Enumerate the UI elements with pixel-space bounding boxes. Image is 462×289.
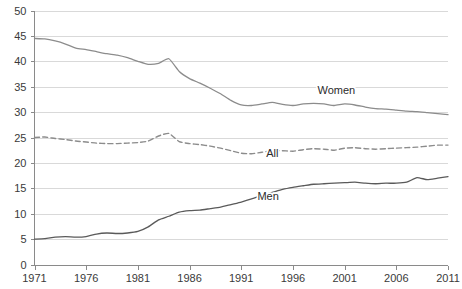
y-axis-tick-labels: 05101520253035404550	[14, 5, 26, 271]
x-tick-label-1976: 1976	[74, 272, 98, 284]
y-tick-label-30: 30	[14, 106, 26, 118]
line-chart: 05101520253035404550 1971197619811986199…	[0, 0, 462, 289]
series-labels: WomenWomenAllAllMenMen	[257, 84, 355, 202]
series-line-women	[35, 38, 449, 114]
x-tick-label-1981: 1981	[126, 272, 150, 284]
series-line-all	[35, 133, 449, 153]
x-tick-label-2001: 2001	[332, 272, 356, 284]
gridlines	[35, 12, 449, 266]
y-tick-label-45: 45	[14, 30, 26, 42]
x-tick-label-1996: 1996	[281, 272, 305, 284]
y-tick-label-5: 5	[20, 233, 26, 245]
x-tick-label-2011: 2011	[436, 272, 460, 284]
y-tick-label-15: 15	[14, 182, 26, 194]
x-axis-tick-labels: 197119761981198619911996200120062011	[22, 272, 460, 284]
series-line-men	[35, 177, 449, 239]
y-tick-label-50: 50	[14, 5, 26, 17]
x-tick-label-2006: 2006	[384, 272, 408, 284]
y-tick-label-40: 40	[14, 55, 26, 67]
x-tick-label-1986: 1986	[177, 272, 201, 284]
chart-canvas: 05101520253035404550 1971197619811986199…	[0, 0, 462, 289]
x-tick-label-1971: 1971	[22, 272, 46, 284]
y-tick-label-10: 10	[14, 208, 26, 220]
series-label-all: All	[266, 147, 278, 159]
series-label-men: Men	[257, 190, 278, 202]
y-tick-label-0: 0	[20, 259, 26, 271]
y-tick-label-25: 25	[14, 132, 26, 144]
series-label-women: Women	[318, 84, 356, 96]
y-tick-label-20: 20	[14, 157, 26, 169]
y-tick-label-35: 35	[14, 81, 26, 93]
x-axis-ticks	[36, 266, 449, 270]
x-tick-label-1991: 1991	[229, 272, 253, 284]
